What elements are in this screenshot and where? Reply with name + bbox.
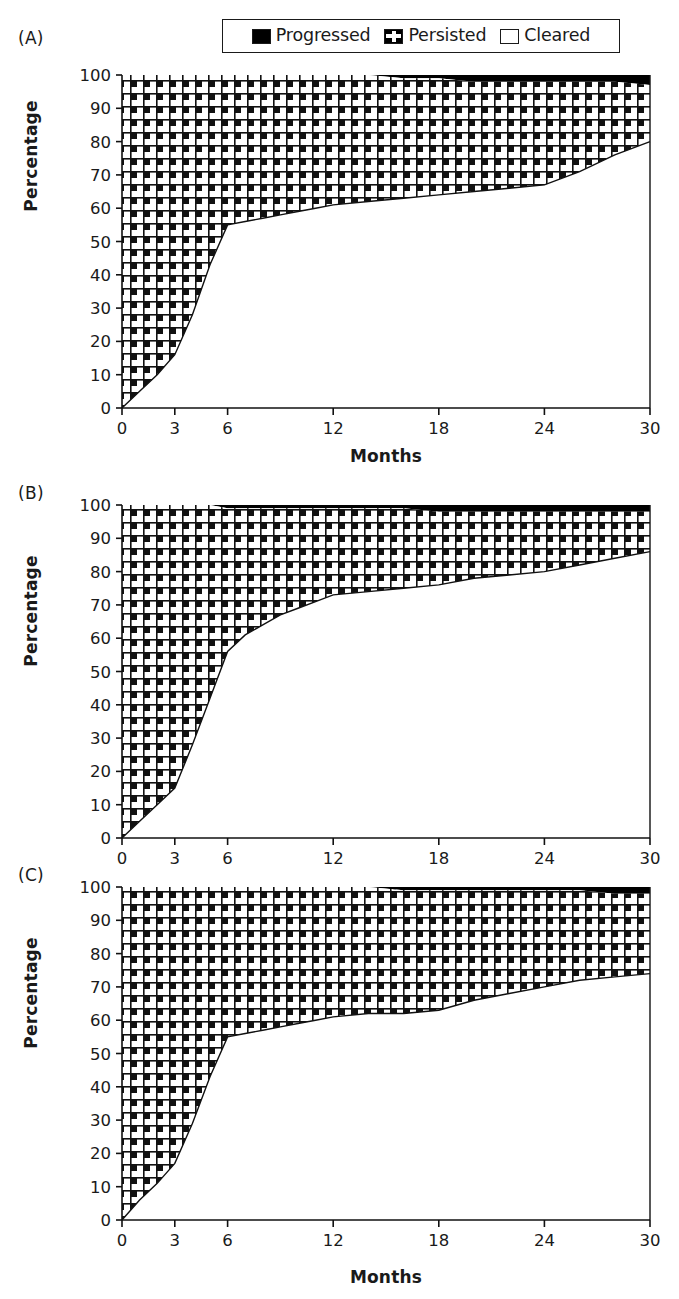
- y-tick-label: 20: [90, 1144, 111, 1163]
- x-tick-label: 18: [428, 419, 449, 438]
- y-tick-label: 90: [90, 911, 111, 930]
- x-tick-label: 6: [222, 1231, 233, 1250]
- y-tick-label: 80: [90, 945, 111, 964]
- y-tick-label: 100: [80, 878, 112, 897]
- x-tick-label: 24: [534, 1231, 555, 1250]
- x-tick-label: 30: [640, 1231, 661, 1250]
- y-tick-label: 80: [90, 133, 111, 152]
- y-tick-label: 40: [90, 1078, 111, 1097]
- y-tick-label: 50: [90, 663, 111, 682]
- x-tick-label: 18: [428, 1231, 449, 1250]
- x-tick-label: 3: [170, 1231, 181, 1250]
- y-tick-label: 30: [90, 1111, 111, 1130]
- x-tick-label: 12: [323, 419, 344, 438]
- y-tick-label: 60: [90, 199, 111, 218]
- x-tick-label: 3: [170, 419, 181, 438]
- y-tick-label: 0: [101, 1211, 112, 1230]
- y-tick-label: 30: [90, 299, 111, 318]
- y-tick-label: 10: [90, 796, 111, 815]
- y-tick-label: 60: [90, 1011, 111, 1030]
- y-tick-label: 10: [90, 366, 111, 385]
- x-axis-label-c: Months: [122, 1267, 650, 1287]
- chart-panel-a: (A) Percentage 0102030405060708090100036…: [0, 28, 679, 468]
- y-tick-label: 100: [80, 496, 112, 515]
- y-tick-label: 60: [90, 629, 111, 648]
- x-tick-label: 30: [640, 419, 661, 438]
- x-tick-label: 0: [117, 1231, 128, 1250]
- x-tick-label: 24: [534, 419, 555, 438]
- y-tick-label: 90: [90, 529, 111, 548]
- x-tick-label: 0: [117, 419, 128, 438]
- y-tick-label: 50: [90, 233, 111, 252]
- y-tick-label: 70: [90, 978, 111, 997]
- y-tick-label: 40: [90, 266, 111, 285]
- y-tick-label: 80: [90, 563, 111, 582]
- chart-panel-c: (C) Percentage 0102030405060708090100036…: [0, 865, 679, 1285]
- plot-area-b: 010203040506070809010003612182430: [0, 483, 679, 903]
- y-tick-label: 20: [90, 332, 111, 351]
- y-tick-label: 10: [90, 1178, 111, 1197]
- plot-area-a: 010203040506070809010003612182430: [0, 28, 679, 468]
- y-tick-label: 30: [90, 729, 111, 748]
- y-tick-label: 70: [90, 166, 111, 185]
- chart-panel-b: (B) Percentage 0102030405060708090100036…: [0, 483, 679, 903]
- y-tick-label: 20: [90, 762, 111, 781]
- x-tick-label: 12: [323, 1231, 344, 1250]
- y-tick-label: 50: [90, 1045, 111, 1064]
- y-tick-label: 0: [101, 399, 112, 418]
- y-tick-label: 0: [101, 829, 112, 848]
- x-tick-label: 6: [222, 419, 233, 438]
- y-tick-label: 70: [90, 596, 111, 615]
- y-tick-label: 100: [80, 66, 112, 85]
- x-axis-label-a: Months: [122, 446, 650, 466]
- plot-area-c: 010203040506070809010003612182430: [0, 865, 679, 1285]
- y-tick-label: 90: [90, 99, 111, 118]
- y-tick-label: 40: [90, 696, 111, 715]
